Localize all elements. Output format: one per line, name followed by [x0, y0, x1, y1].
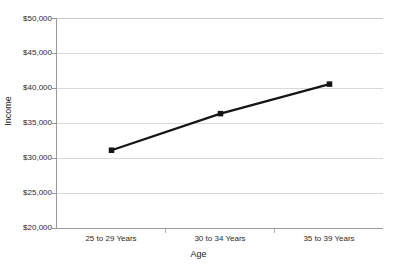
income-by-age-line-chart: $50,000 $45,000 $40,000 $35,000 $30,000 …: [0, 0, 397, 266]
income-series: [57, 18, 384, 229]
data-point-2: [218, 111, 224, 117]
x-tick-label-35-39: 35 to 39 Years: [303, 234, 354, 243]
y-tick-label: $20,000: [0, 224, 52, 232]
x-tick-mark: [165, 229, 166, 233]
x-tick-label-30-34: 30 to 34 Years: [194, 234, 245, 243]
plot-area: [56, 18, 383, 229]
data-point-3: [327, 81, 333, 87]
y-tick-label: $30,000: [0, 154, 52, 162]
x-tick-mark: [274, 229, 275, 233]
x-axis-title: Age: [0, 249, 397, 259]
y-tick-label: $45,000: [0, 49, 52, 57]
x-tick-label-25-29: 25 to 29 Years: [85, 234, 136, 243]
y-axis-title: Income: [3, 81, 13, 141]
y-tick-label: $50,000: [0, 15, 52, 23]
data-point-1: [109, 147, 115, 153]
series-line-income: [112, 84, 330, 150]
y-tick-label: $25,000: [0, 189, 52, 197]
